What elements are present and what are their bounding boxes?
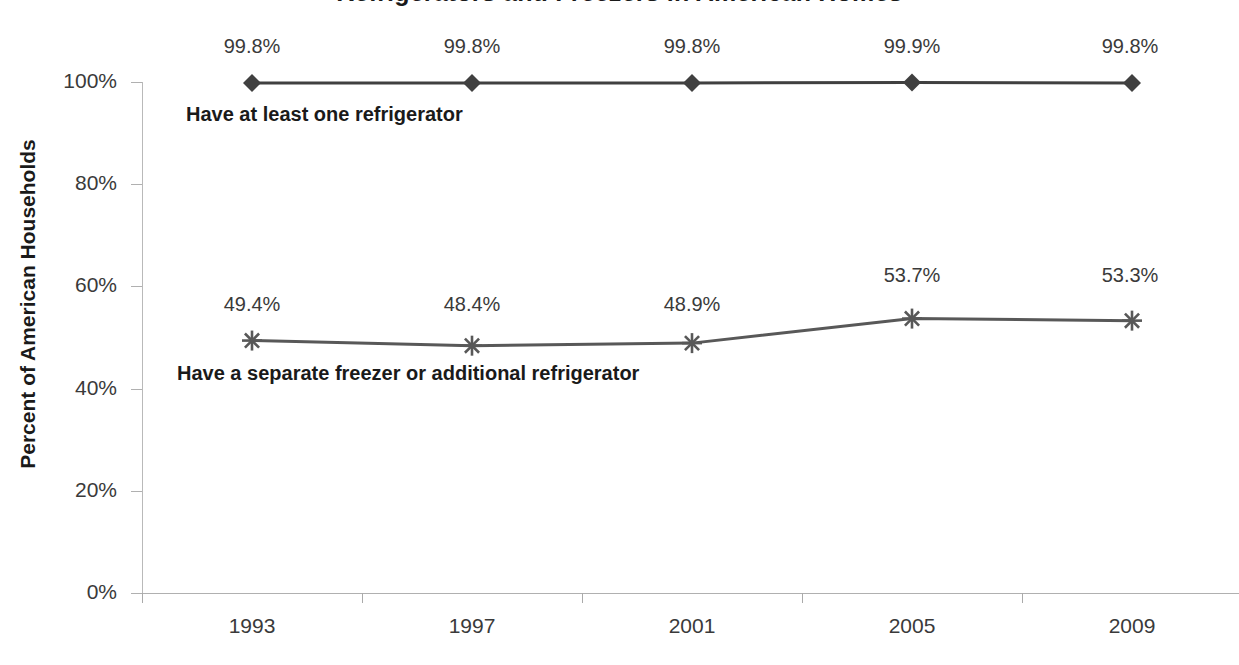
x-tick-2 [582, 593, 583, 603]
x-tick-label-1993: 1993 [172, 614, 332, 638]
marker-diamond-0-4 [1123, 74, 1141, 92]
marker-asterisk-1-4 [1122, 311, 1142, 331]
data-label-s2-1993: 49.4% [177, 293, 327, 316]
series-line-1 [252, 319, 1132, 346]
marker-asterisk-1-0 [242, 331, 262, 351]
y-tick-label-60: 60% [7, 273, 117, 297]
series-label-freezer: Have a separate freezer or additional re… [177, 362, 639, 385]
y-tick-label-20: 20% [7, 478, 117, 502]
data-label-s1-2005: 99.9% [837, 35, 987, 58]
y-tick-label-100: 100% [7, 69, 117, 93]
data-label-s2-1997: 48.4% [397, 293, 547, 316]
series-plot-area [0, 0, 1239, 665]
marker-diamond-0-3 [903, 74, 921, 92]
x-tick-label-2005: 2005 [832, 614, 992, 638]
y-axis-line [142, 82, 143, 594]
marker-diamond-0-1 [463, 74, 481, 92]
y-tick-100 [131, 82, 142, 83]
marker-asterisk-1-3 [902, 309, 922, 329]
y-tick-0 [131, 593, 142, 594]
data-label-s1-2009: 99.8% [1055, 35, 1205, 58]
y-tick-label-80: 80% [7, 171, 117, 195]
marker-asterisk-1-1 [462, 336, 482, 356]
x-axis-line [142, 593, 1239, 594]
y-tick-40 [131, 389, 142, 390]
x-tick-label-1997: 1997 [392, 614, 552, 638]
data-label-s1-2001: 99.8% [617, 35, 767, 58]
x-tick-1 [362, 593, 363, 603]
marker-diamond-0-2 [683, 74, 701, 92]
data-label-s2-2005: 53.7% [837, 264, 987, 287]
x-tick-label-2001: 2001 [612, 614, 772, 638]
chart-title: Refrigerators and Freezers in American H… [0, 0, 1239, 7]
x-tick-4 [1022, 593, 1023, 603]
y-tick-20 [131, 491, 142, 492]
x-tick-0 [142, 593, 143, 603]
series-line-0 [252, 83, 1132, 84]
y-tick-60 [131, 286, 142, 287]
chart-canvas: Refrigerators and Freezers in American H… [0, 0, 1239, 665]
x-tick-3 [802, 593, 803, 603]
series-label-refrigerator: Have at least one refrigerator [186, 103, 463, 126]
y-tick-80 [131, 184, 142, 185]
data-label-s1-1993: 99.8% [177, 35, 327, 58]
x-tick-label-2009: 2009 [1052, 614, 1212, 638]
marker-asterisk-1-2 [682, 333, 702, 353]
data-label-s2-2001: 48.9% [617, 293, 767, 316]
y-tick-label-0: 0% [7, 580, 117, 604]
data-label-s1-1997: 99.8% [397, 35, 547, 58]
marker-diamond-0-0 [243, 74, 261, 92]
y-tick-label-40: 40% [7, 376, 117, 400]
data-label-s2-2009: 53.3% [1055, 264, 1205, 287]
